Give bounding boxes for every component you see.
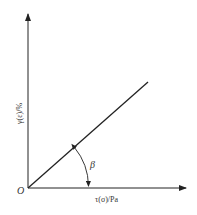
linear-line	[28, 82, 148, 188]
x-axis-label: τ(σ)/Pa	[95, 195, 119, 204]
diagram-canvas: O β τ(σ)/Pa γ(ε)/%	[0, 0, 197, 215]
angle-arc	[75, 148, 89, 187]
y-axis-label: γ(ε)/%	[15, 103, 24, 125]
angle-beta-label: β	[89, 159, 95, 170]
origin-label: O	[17, 185, 24, 196]
